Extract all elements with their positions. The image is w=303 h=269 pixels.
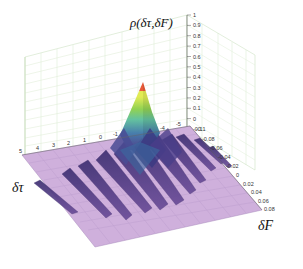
tau-tick: 3: [52, 142, 55, 148]
f-tick: 0: [236, 172, 239, 178]
z-tick: 0.5: [193, 64, 201, 70]
f-tick: 0.06: [258, 198, 269, 204]
tau-tick: -4: [160, 125, 165, 131]
z-tick: 0: [193, 116, 196, 122]
f-tick: -0.1: [196, 126, 205, 132]
tau-tick: 5: [19, 148, 22, 154]
z-tick: 0.8: [193, 33, 201, 39]
tau-axis-title: δτ: [12, 180, 25, 195]
z-tick: 0.7: [193, 43, 201, 49]
z-tick: 0.2: [193, 95, 201, 101]
z-tick: 1: [193, 12, 196, 18]
z-tick: 0.4: [193, 74, 201, 80]
f-tick: -0.08: [202, 136, 215, 142]
z-tick: 0.1: [193, 105, 201, 111]
f-tick: 0.04: [251, 189, 262, 195]
f-tick: -0.04: [218, 154, 231, 160]
tau-tick: 0: [99, 134, 102, 140]
tau-tick: 4: [36, 145, 39, 151]
tau-tick: 2: [67, 140, 70, 146]
tau-tick: -5: [176, 121, 181, 127]
f-tick: -0.02: [226, 163, 239, 169]
f-tick: 0.02: [243, 181, 254, 187]
f-tick: 0.08: [264, 206, 275, 212]
f-tick: -0.06: [210, 145, 223, 151]
tau-tick: 1: [83, 137, 86, 143]
surface-plot: 1 0.9 0.8 0.7 0.6 0.5 0.4 0.3 0.2 0.1 0 …: [0, 0, 303, 269]
z-axis-title: ρ(δτ,δF): [129, 15, 173, 30]
z-tick: 0.3: [193, 85, 201, 91]
z-tick: 0.9: [193, 22, 201, 28]
f-axis-title: δF: [258, 218, 274, 233]
tau-tick: -1: [113, 131, 118, 137]
z-tick: 0.6: [193, 54, 201, 60]
